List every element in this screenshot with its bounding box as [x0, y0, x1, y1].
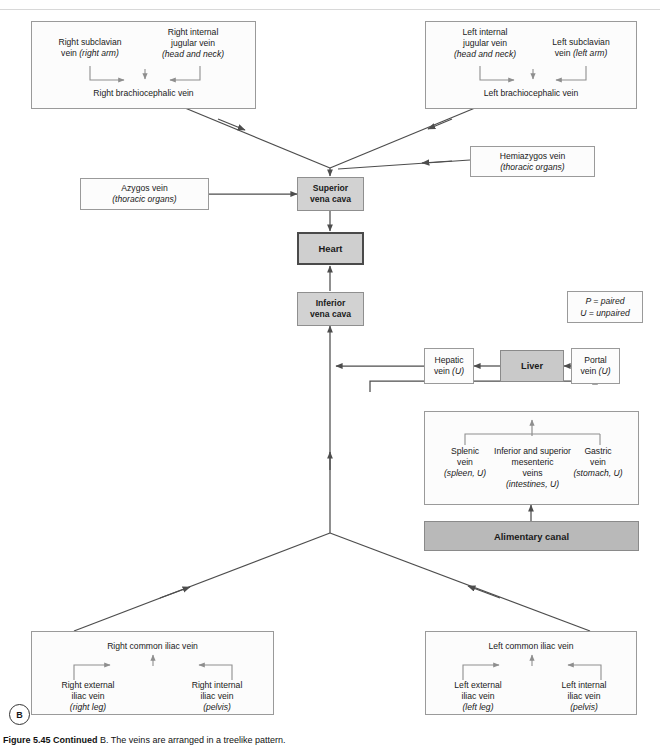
liver-box: Liver [500, 350, 564, 382]
left-brachiocephalic-inner-arrows [426, 22, 638, 110]
right-brachiocephalic-inner-arrows [32, 22, 257, 110]
top-divider-rule [0, 9, 660, 10]
left-brachiocephalic-group-box: Left internal jugular vein (head and nec… [425, 21, 637, 109]
right-brachiocephalic-group-box: Right subclavian vein (right arm) Right … [31, 21, 256, 109]
figure-panel-b: Right subclavian vein (right arm) Right … [0, 0, 660, 745]
azygos-vein-box: Azygos vein (thoracic organs) [80, 178, 209, 210]
left-common-iliac-group-box: Left common iliac vein Left external ili… [425, 631, 637, 715]
hemiazygos-vein-box: Hemiazygos vein (thoracic organs) [470, 146, 595, 177]
superior-vena-cava-box: Superior vena cava [297, 177, 364, 211]
right-common-iliac-group-box: Right common iliac vein Right external i… [31, 631, 274, 715]
legend-box: P = paired U = unpaired [567, 291, 643, 323]
portal-vein-box: Portal vein (U) [571, 348, 620, 384]
gi-tributary-veins-group-box: Splenic vein (spleen, U) Inferior and su… [424, 411, 639, 505]
hepatic-vein-box: Hepatic vein (U) [424, 348, 474, 384]
figure-caption-label: Figure 5.45 Continued [3, 735, 98, 745]
gi-veins-inner-arrows [425, 412, 640, 506]
inferior-vena-cava-box: Inferior vena cava [297, 292, 364, 326]
heart-box: Heart [297, 232, 364, 265]
alimentary-canal-box: Alimentary canal [424, 521, 639, 551]
right-iliac-inner-arrows [32, 632, 275, 716]
figure-caption-text: B. The veins are arranged in a treelike … [98, 735, 286, 745]
panel-marker-b: B [9, 704, 30, 725]
left-iliac-inner-arrows [426, 632, 638, 716]
figure-caption: Figure 5.45 Continued B. The veins are a… [3, 735, 658, 745]
